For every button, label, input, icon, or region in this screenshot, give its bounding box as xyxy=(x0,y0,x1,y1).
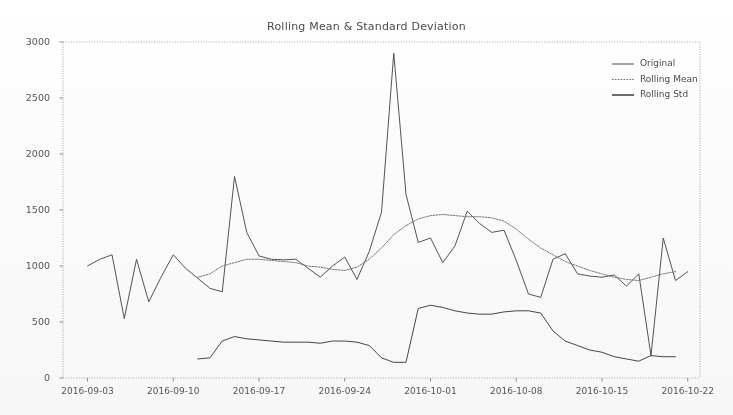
y-tick-label: 1000 xyxy=(8,260,50,271)
x-tick-label: 2016-10-01 xyxy=(390,386,470,396)
x-tick-label: 2016-09-17 xyxy=(219,386,299,396)
x-tick-label: 2016-10-22 xyxy=(648,386,728,396)
y-tick-label: 0 xyxy=(8,372,50,383)
x-tick-label: 2016-09-03 xyxy=(48,386,128,396)
x-tick-label: 2016-09-10 xyxy=(133,386,213,396)
x-tick-label: 2016-10-08 xyxy=(476,386,556,396)
x-tick-label: 2016-10-15 xyxy=(562,386,642,396)
y-tick-label: 2000 xyxy=(8,148,50,159)
figure-canvas: Rolling Mean & Standard Deviation 050010… xyxy=(0,0,733,415)
series-line-original xyxy=(88,53,688,355)
legend-label-original: Original xyxy=(640,58,675,68)
y-tick-label: 1500 xyxy=(8,204,50,215)
plot-area xyxy=(0,0,733,415)
legend-label-rolling-mean: Rolling Mean xyxy=(640,74,698,84)
legend-label-rolling-std: Rolling Std xyxy=(640,89,688,99)
y-tick-label: 500 xyxy=(8,316,50,327)
y-tick-label: 2500 xyxy=(8,92,50,103)
y-tick-marks xyxy=(60,42,64,378)
legend-line-samples xyxy=(612,64,634,95)
x-tick-label: 2016-09-24 xyxy=(305,386,385,396)
series-line-rolling-std xyxy=(198,305,676,362)
series-line-rolling-mean xyxy=(198,214,676,280)
y-tick-label: 3000 xyxy=(8,36,50,47)
series-lines xyxy=(88,53,688,362)
x-tick-marks xyxy=(88,378,688,382)
